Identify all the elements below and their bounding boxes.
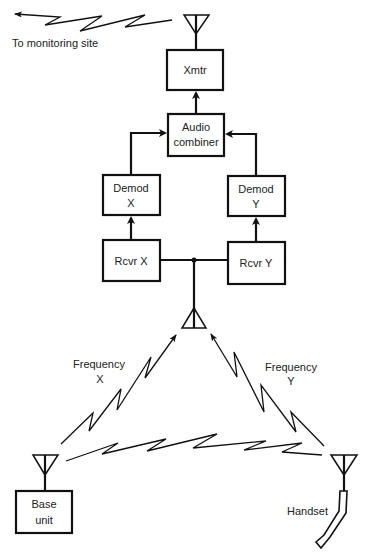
monitoring-diagram: To monitoring site Xmtr Audio combiner D… [0,0,368,555]
svg-text:unit: unit [35,514,53,526]
svg-text:combiner: combiner [173,136,219,148]
handset-label: Handset [287,505,328,517]
frequency-y-label-sub: Y [287,375,295,387]
svg-text:Y: Y [252,198,260,210]
frequency-y-label: Frequency [265,361,317,373]
svg-text:Base: Base [31,498,56,510]
uplink-radio-link [15,14,172,31]
svg-text:X: X [127,197,135,209]
frequency-x-label-sub: X [96,373,104,385]
svg-text:Rcvr Y: Rcvr Y [240,257,273,269]
arrow-demody-to-combiner [227,134,256,176]
xmtr-block: Xmtr [167,50,223,90]
handset-icon [316,491,347,548]
uplink-caption: To monitoring site [12,37,98,49]
frequency-x-radio-link [61,335,176,444]
xmtr-antenna-icon [184,15,209,50]
base-handset-radio-link [66,434,322,461]
svg-text:Xmtr: Xmtr [183,64,207,76]
demod-x-block: Demod X [103,175,160,215]
demod-y-block: Demod Y [228,176,285,216]
rcvr-y-block: Rcvr Y [228,242,285,284]
svg-text:Demod: Demod [113,182,148,194]
arrow-demodx-to-combiner [131,133,165,175]
svg-text:Rcvr X: Rcvr X [115,255,149,267]
handset-antenna-icon [331,455,357,491]
base-unit-block: Base unit [16,491,72,533]
svg-text:Demod: Demod [238,183,273,195]
frequency-y-radio-link [211,334,324,446]
base-antenna-icon [33,455,58,491]
audio-combiner-block: Audio combiner [168,114,224,156]
frequency-x-label: Frequency [73,358,125,370]
rcvr-x-block: Rcvr X [103,240,160,281]
svg-text:Audio: Audio [182,121,210,133]
